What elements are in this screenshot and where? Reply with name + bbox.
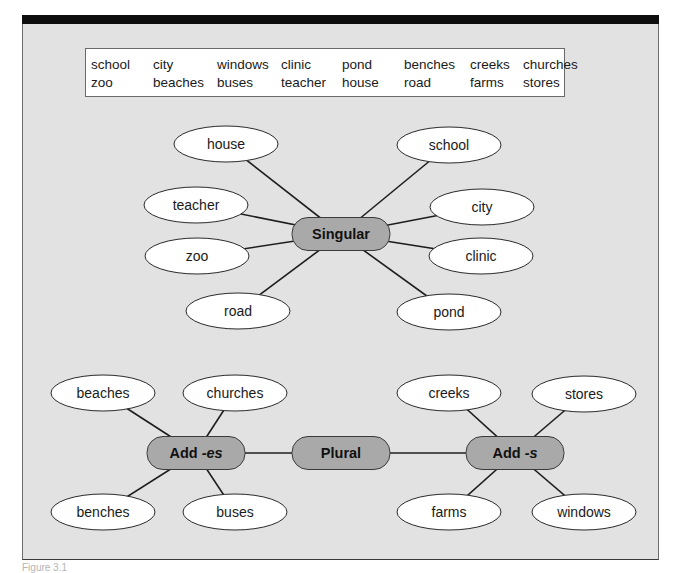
leaf-node-school: school — [397, 127, 501, 163]
hub-node-plural: Plural — [292, 437, 390, 470]
leaf-node-churches: churches — [183, 375, 287, 411]
hub-label: Add -es — [169, 445, 222, 461]
leaf-label: stores — [565, 386, 603, 402]
hub-node-singular: Singular — [292, 218, 390, 251]
nodes-layer: houseschoolteachercityzooclinicroadpondb… — [51, 126, 636, 530]
leaf-label: churches — [207, 385, 264, 401]
hub-label: Add -s — [492, 445, 537, 461]
leaf-node-teacher: teacher — [144, 187, 248, 223]
leaf-label: beaches — [77, 385, 130, 401]
leaf-label: windows — [556, 504, 611, 520]
leaf-label: pond — [433, 304, 464, 320]
leaf-label: buses — [216, 504, 253, 520]
leaf-node-stores: stores — [532, 376, 636, 412]
hub-label-suffix: -es — [202, 445, 223, 461]
leaf-node-road: road — [186, 293, 290, 329]
leaf-node-pond: pond — [397, 294, 501, 330]
leaf-node-creeks: creeks — [397, 375, 501, 411]
leaf-label: clinic — [465, 248, 496, 264]
hub-label-text: Add — [169, 445, 201, 461]
leaf-node-house: house — [174, 126, 278, 162]
leaf-node-farms: farms — [397, 494, 501, 530]
hub-label-text: Singular — [312, 226, 370, 242]
leaf-node-windows: windows — [532, 494, 636, 530]
hub-label: Singular — [312, 226, 370, 242]
leaf-label: teacher — [173, 197, 220, 213]
hub-label-suffix: -s — [525, 445, 538, 461]
leaf-node-buses: buses — [183, 494, 287, 530]
leaf-node-beaches: beaches — [51, 375, 155, 411]
leaf-label: city — [472, 199, 493, 215]
leaf-label: zoo — [186, 248, 209, 264]
leaf-label: road — [224, 303, 252, 319]
hub-label-text: Add — [492, 445, 524, 461]
leaf-node-benches: benches — [51, 494, 155, 530]
hub-label: Plural — [321, 445, 361, 461]
leaf-label: benches — [77, 504, 130, 520]
leaf-node-city: city — [430, 189, 534, 225]
leaf-label: school — [429, 137, 469, 153]
leaf-node-clinic: clinic — [429, 238, 533, 274]
leaf-label: creeks — [428, 385, 469, 401]
leaf-label: farms — [432, 504, 467, 520]
leaf-label: house — [207, 136, 245, 152]
figure-caption: Figure 3.1 — [22, 562, 67, 573]
hub-node-add_es: Add -es — [147, 437, 245, 470]
hub-node-add_s: Add -s — [466, 437, 564, 470]
hub-label-text: Plural — [321, 445, 361, 461]
leaf-node-zoo: zoo — [145, 238, 249, 274]
